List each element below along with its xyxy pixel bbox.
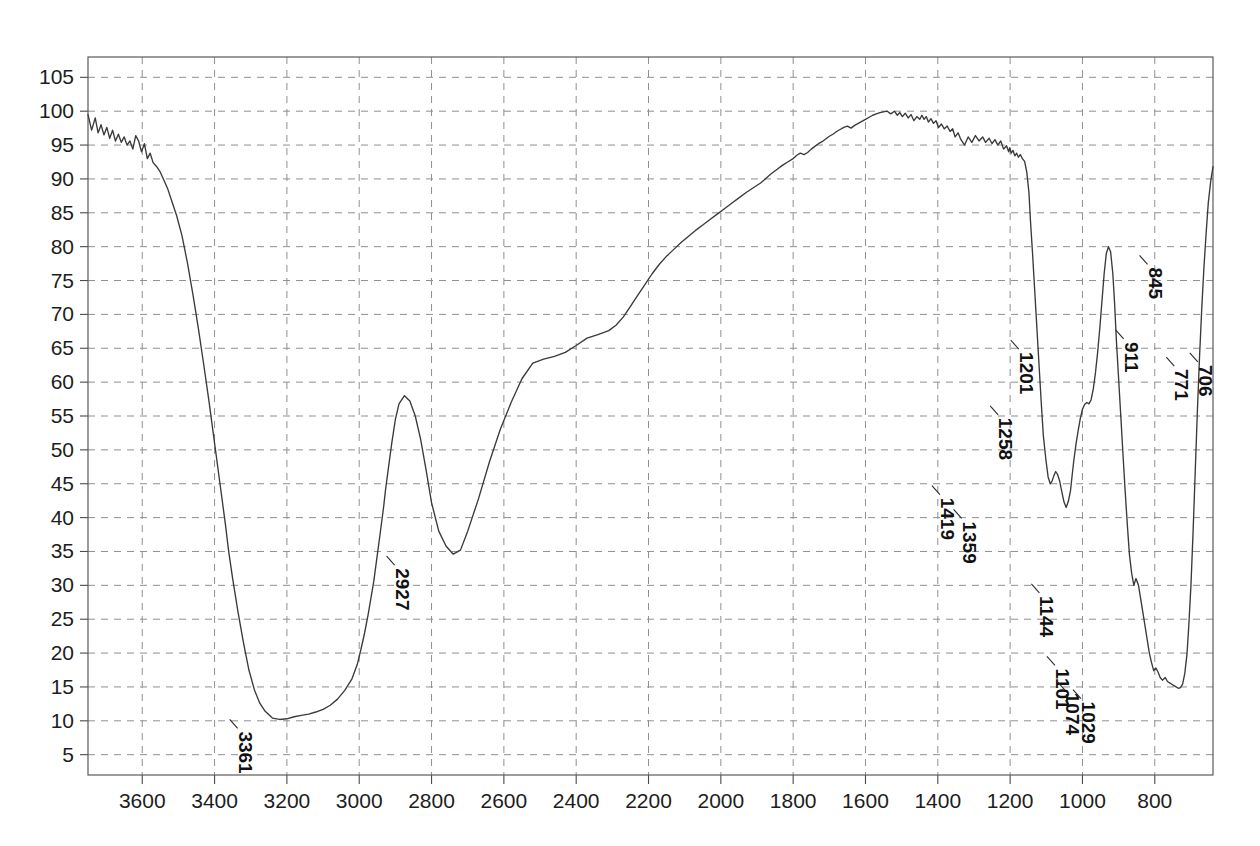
spectrum-plot: 5101520253035404550556065707580859095100… [0,0,1260,846]
y-axis-tick-label: 85 [51,201,74,224]
peak-label-1029: 1029 [1078,702,1099,744]
axis-ticks [80,77,1155,784]
peak-label-3361: 3361 [235,731,256,774]
y-axis-labels: 5101520253035404550556065707580859095100… [39,65,74,765]
peak-label-1419: 1419 [937,498,958,540]
x-axis-tick-label: 1200 [987,789,1034,812]
y-axis-tick-label: 55 [51,404,74,427]
y-axis-tick-label: 45 [51,472,74,495]
y-axis-tick-label: 80 [51,235,74,258]
y-axis-tick-label: 35 [51,539,74,562]
peak-leader-line [1140,255,1148,264]
peak-label-706: 706 [1195,365,1216,397]
peak-leader-line [1190,353,1198,362]
y-axis-tick-label: 65 [51,336,74,359]
peak-leader-line [387,556,395,565]
y-axis-tick-label: 5 [62,743,74,766]
y-axis-tick-label: 105 [39,65,74,88]
y-axis-tick-label: 75 [51,269,74,292]
peak-annotations: 3361292714191359125812011144110110741029… [230,255,1216,774]
y-axis-tick-label: 90 [51,167,74,190]
peak-label-2927: 2927 [392,568,413,610]
peak-leader-line [1047,656,1055,665]
x-axis-tick-label: 3400 [191,789,238,812]
y-axis-tick-label: 95 [51,133,74,156]
peak-leader-line [1011,340,1019,349]
y-axis-tick-label: 20 [51,641,74,664]
y-axis-tick-label: 40 [51,506,74,529]
x-axis-tick-label: 800 [1137,789,1172,812]
y-axis-tick-label: 50 [51,438,74,461]
x-axis-tick-label: 3200 [264,789,311,812]
ir-spectrum-chart: 5101520253035404550556065707580859095100… [0,0,1260,846]
peak-label-911: 911 [1121,342,1142,373]
peak-label-1359: 1359 [959,521,980,563]
grid-lines [88,57,1213,775]
peak-label-1201: 1201 [1016,352,1037,395]
y-axis-tick-label: 10 [51,709,74,732]
peak-label-771: 771 [1171,369,1192,401]
y-axis-tick-label: 25 [51,607,74,630]
x-axis-tick-label: 2800 [408,789,455,812]
y-axis-tick-label: 70 [51,302,74,325]
x-axis-tick-label: 2600 [481,789,528,812]
y-axis-tick-label: 60 [51,370,74,393]
x-axis-tick-label: 1000 [1059,789,1106,812]
x-axis-tick-label: 1600 [842,789,889,812]
x-axis-tick-label: 1400 [914,789,961,812]
x-axis-tick-label: 2000 [697,789,744,812]
x-axis-labels: 3600340032003000280026002400220020001800… [119,789,1172,812]
peak-label-1258: 1258 [995,418,1016,460]
peak-leader-line [990,406,998,415]
peak-leader-line [932,486,940,495]
x-axis-tick-label: 2400 [553,789,600,812]
x-axis-tick-label: 2200 [625,789,672,812]
peak-leader-line [1166,357,1174,366]
y-axis-tick-label: 30 [51,573,74,596]
peak-label-845: 845 [1145,267,1166,299]
x-axis-tick-label: 1800 [770,789,817,812]
x-axis-tick-label: 3000 [336,789,383,812]
y-axis-tick-label: 15 [51,675,74,698]
peak-label-1144: 1144 [1036,596,1057,638]
y-axis-tick-label: 100 [39,99,74,122]
x-axis-tick-label: 3600 [119,789,166,812]
